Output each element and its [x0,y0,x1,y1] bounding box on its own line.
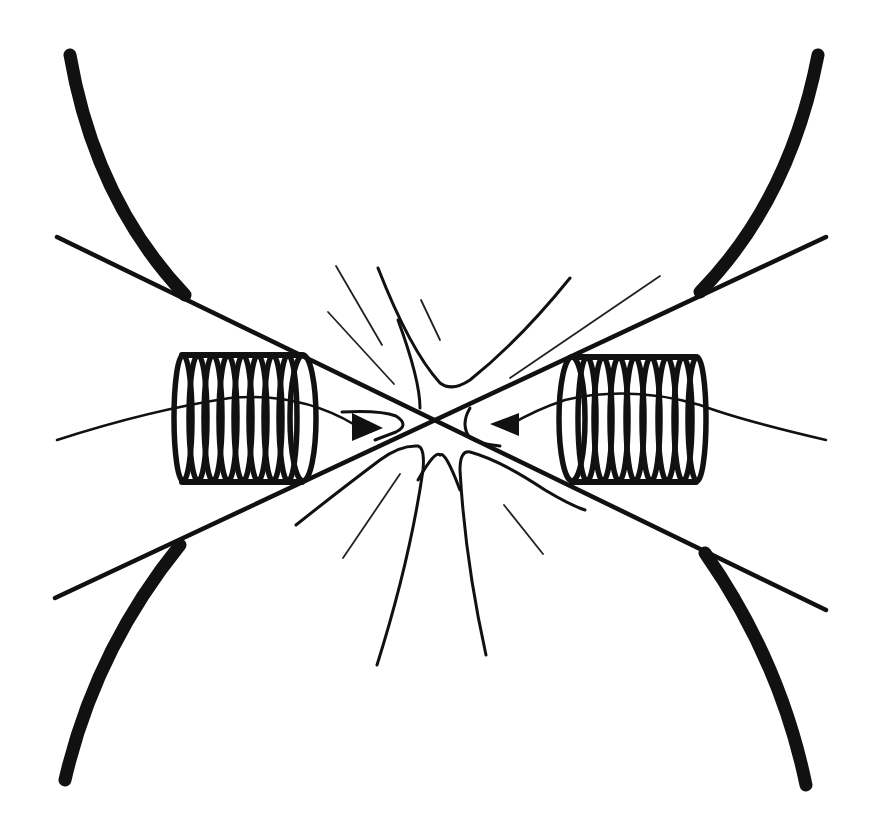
boundary-curve-top-left [70,55,185,295]
left-coil [174,355,316,482]
arrow-right-icon [352,413,383,441]
right-coil [559,357,706,482]
boundary-curve-bottom-left [65,545,180,780]
boundary-curve-bottom-right [705,553,806,785]
diagram-canvas [0,0,874,831]
arrow-left-icon [490,413,519,436]
boundary-curve-top-right [700,55,818,292]
